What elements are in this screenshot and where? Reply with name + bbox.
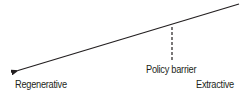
extractive-label: Extractive <box>196 78 234 90</box>
regenerative-label: Regenerative <box>15 78 67 90</box>
spectrum-arrow-line <box>18 4 239 71</box>
spectrum-diagram: Policy barrier Regenerative Extractive <box>0 0 251 96</box>
policy-barrier-label: Policy barrier <box>146 63 196 75</box>
